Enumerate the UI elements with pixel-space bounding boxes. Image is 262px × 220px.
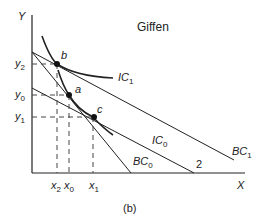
- y0-label: y0: [15, 89, 25, 103]
- ic0-label: IC0: [152, 135, 167, 149]
- y2-label: y2: [15, 58, 25, 72]
- ic1-curve: [42, 36, 113, 78]
- ic0-curve: [58, 70, 113, 135]
- y1-label: y1: [15, 111, 25, 125]
- x0-label: x0: [64, 180, 74, 194]
- point-b-marker: [54, 61, 60, 67]
- point-c-label: c: [97, 104, 103, 115]
- x-axis-label: X: [237, 180, 244, 191]
- x2-label: x2: [51, 180, 61, 194]
- diagram-title: Giffen: [137, 21, 169, 33]
- figure-caption: (b): [123, 203, 136, 214]
- dashed-guides: [32, 64, 93, 173]
- bc1-label: BC1: [232, 146, 252, 160]
- x1-label: x1: [89, 180, 99, 194]
- line-2: [32, 88, 194, 173]
- point-a-marker: [66, 92, 72, 98]
- point-a-label: a: [75, 84, 81, 95]
- bc0-label: BC0: [133, 156, 153, 170]
- diagram-canvas: [0, 0, 262, 220]
- point-b-label: b: [61, 50, 67, 61]
- line-2-label: 2: [196, 159, 202, 170]
- bc1-line: [32, 52, 234, 160]
- ic1-label: IC1: [118, 72, 133, 86]
- y-axis-label: Y: [18, 11, 25, 22]
- bc0-line: [32, 52, 131, 173]
